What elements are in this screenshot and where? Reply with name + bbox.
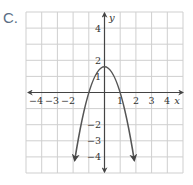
x-tick-neg2: −2	[61, 95, 75, 106]
x-tick-neg3: −3	[45, 95, 59, 106]
x-axis-label: x	[174, 95, 180, 106]
axes	[28, 13, 183, 172]
x-tick-2: 2	[133, 95, 139, 106]
y-axis-label: y	[108, 12, 115, 23]
y-tick-neg4: −4	[87, 151, 101, 162]
x-tick-neg4: −4	[29, 95, 43, 106]
y-tick-4: 4	[95, 23, 101, 34]
y-tick-1: 1	[95, 71, 101, 82]
x-tick-1: 1	[117, 95, 123, 106]
y-tick-neg2: −2	[87, 119, 101, 130]
y-tick-neg3: −3	[87, 135, 101, 146]
x-tick-4: 4	[164, 95, 170, 106]
x-tick-3: 3	[148, 95, 154, 106]
y-tick-2: 2	[95, 55, 101, 66]
graph: −4 −3 −2 1 2 3 4 x 4 2 1 −2 −3 −4 y	[0, 0, 193, 185]
